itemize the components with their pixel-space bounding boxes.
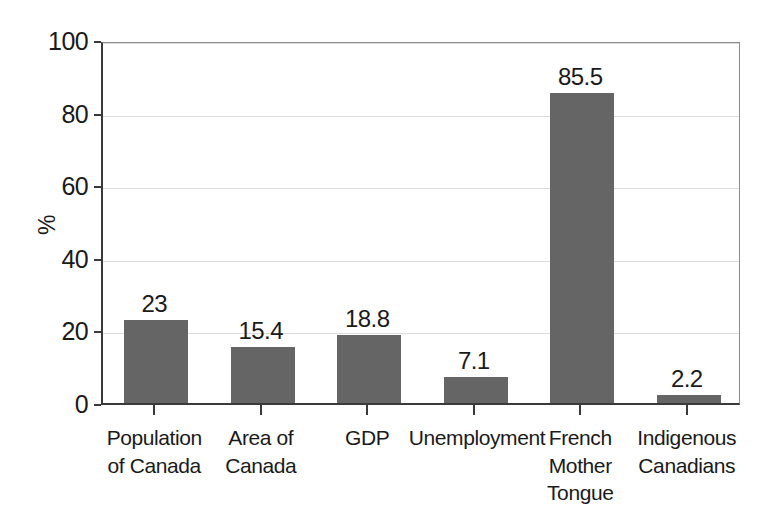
bar xyxy=(124,320,188,403)
bar xyxy=(657,395,721,403)
gridline xyxy=(103,43,739,44)
x-axis-tick-label: IndigenousCanadians xyxy=(622,424,752,479)
y-axis-tick-mark xyxy=(94,404,101,406)
y-axis-tick-mark xyxy=(94,259,101,261)
bar-value-label: 2.2 xyxy=(627,367,747,391)
x-axis-label-line: Canadians xyxy=(622,452,752,480)
x-axis-label-line: Canada xyxy=(196,452,326,480)
y-axis-tick-label: 0 xyxy=(0,392,88,417)
y-axis-label: % xyxy=(27,208,67,242)
gridline xyxy=(103,333,739,334)
y-axis-tick-mark xyxy=(94,331,101,333)
bar-value-label: 23 xyxy=(94,292,214,316)
x-axis-label-line: Tongue xyxy=(515,479,645,507)
bar xyxy=(337,335,401,403)
bar xyxy=(550,93,614,403)
x-axis-tick-mark xyxy=(366,405,368,415)
gridline xyxy=(103,261,739,262)
x-axis-tick-mark xyxy=(686,405,688,415)
y-axis-tick-label: 40 xyxy=(0,247,88,272)
x-axis-tick-mark xyxy=(153,405,155,415)
y-axis-tick-mark xyxy=(94,114,101,116)
gridline xyxy=(103,188,739,189)
y-axis-tick-label: 100 xyxy=(0,29,88,54)
y-axis-tick-mark xyxy=(94,41,101,43)
bar-value-label: 7.1 xyxy=(414,349,534,373)
gridline xyxy=(103,116,739,117)
y-axis-tick-label: 20 xyxy=(0,319,88,344)
bar-value-label: 18.8 xyxy=(307,307,427,331)
x-axis-tick-mark xyxy=(473,405,475,415)
bar-value-label: 85.5 xyxy=(520,65,640,89)
x-axis-tick-mark xyxy=(260,405,262,415)
bar-value-label: 15.4 xyxy=(201,319,321,343)
y-axis-tick-mark xyxy=(94,186,101,188)
x-axis-tick-mark xyxy=(579,405,581,415)
x-axis-label-line: Indigenous xyxy=(622,424,752,452)
y-axis-tick-label: 80 xyxy=(0,102,88,127)
y-axis-tick-label: 60 xyxy=(0,174,88,199)
bar xyxy=(231,347,295,403)
bar xyxy=(444,377,508,403)
bar-chart-figure: % 020406080100 2315.418.87.185.52.2 Popu… xyxy=(0,0,778,530)
